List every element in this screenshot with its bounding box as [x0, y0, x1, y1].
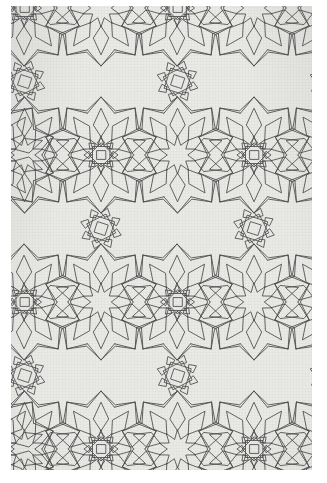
geometric-pattern-drawing	[11, 6, 312, 470]
scanned-page	[0, 0, 327, 483]
pattern-plate	[11, 6, 312, 470]
